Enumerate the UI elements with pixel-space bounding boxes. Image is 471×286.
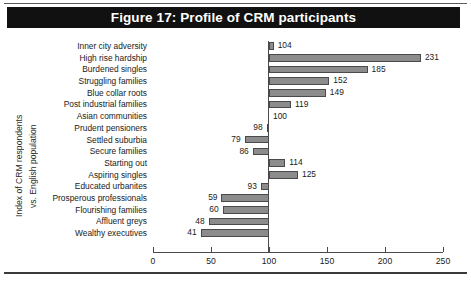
bar-row[interactable]: 41 <box>153 228 443 240</box>
x-axis-tick <box>153 247 154 252</box>
bar-row[interactable]: 93 <box>153 181 443 193</box>
bar[interactable] <box>223 206 269 214</box>
x-axis-tick-label: 50 <box>206 256 216 266</box>
category-label: High rise hardship <box>44 53 150 65</box>
bar-row[interactable]: 98 <box>153 123 443 135</box>
bar-row[interactable]: 59 <box>153 193 443 205</box>
x-axis-tick <box>327 247 328 252</box>
category-label: Flourishing families <box>44 205 150 217</box>
bar[interactable] <box>269 66 368 74</box>
bar-value-label: 114 <box>289 157 302 169</box>
category-label: Secure families <box>44 146 150 158</box>
bar-series: 1042311851521491191009879861141259359604… <box>153 41 443 252</box>
category-label: Starting out <box>44 158 150 170</box>
bar-row[interactable]: 114 <box>153 158 443 170</box>
y-axis-title: Index of CRM respondents vs. English pop… <box>12 76 40 256</box>
bar-value-label: 48 <box>195 216 204 228</box>
bottom-divider-rule <box>4 272 467 274</box>
bar-row[interactable]: 104 <box>153 41 443 53</box>
bar-value-label: 125 <box>302 169 316 181</box>
bar-row[interactable]: 185 <box>153 64 443 76</box>
x-axis-tick <box>385 247 386 252</box>
x-axis-tick-label: 250 <box>436 256 450 266</box>
bar-value-label: 149 <box>330 87 344 99</box>
bar-value-label: 59 <box>208 192 217 204</box>
bar-value-label: 86 <box>239 146 248 158</box>
category-label: Prosperous professionals <box>44 193 150 205</box>
bar[interactable] <box>269 54 421 62</box>
bar[interactable] <box>209 218 269 226</box>
category-label: Educated urbanites <box>44 181 150 193</box>
category-label: Settled suburbia <box>44 135 150 147</box>
y-axis-title-line-1: Index of CRM respondents <box>12 76 26 256</box>
category-label: Inner city adversity <box>44 41 150 53</box>
bar-value-label: 98 <box>253 122 262 134</box>
bar-value-label: 231 <box>425 52 439 64</box>
bar-value-label: 104 <box>278 40 292 52</box>
top-divider-rule <box>4 3 467 4</box>
x-axis-tick-label: 0 <box>151 256 156 266</box>
category-label: Burdened singles <box>44 64 150 76</box>
bar[interactable] <box>269 89 326 97</box>
x-axis-tick-label: 100 <box>262 256 276 266</box>
bar-row[interactable]: 119 <box>153 99 443 111</box>
x-axis-tick <box>269 247 270 252</box>
category-label: Asian communities <box>44 111 150 123</box>
bar-row[interactable]: 125 <box>153 170 443 182</box>
bar-value-label: 185 <box>372 64 386 76</box>
bar-value-label: 93 <box>248 181 257 193</box>
figure-container: Figure 17: Profile of CRM participants I… <box>0 0 471 286</box>
bar-value-label: 79 <box>231 134 240 146</box>
x-axis-tick-label: 200 <box>378 256 392 266</box>
x-axis-tick <box>443 247 444 252</box>
bar-row[interactable]: 86 <box>153 146 443 158</box>
bar[interactable] <box>253 148 269 156</box>
category-label: Prudent pensioners <box>44 123 150 135</box>
bar[interactable] <box>201 229 269 237</box>
figure-title-banner: Figure 17: Profile of CRM participants <box>7 7 460 28</box>
bar[interactable] <box>269 42 274 50</box>
x-axis-tick <box>211 247 212 252</box>
bar-row[interactable]: 100 <box>153 111 443 123</box>
bar[interactable] <box>269 101 291 109</box>
bar[interactable] <box>269 77 329 85</box>
category-label: Affluent greys <box>44 216 150 228</box>
bar-row[interactable]: 48 <box>153 216 443 228</box>
category-label-column: Inner city adversityHigh rise hardshipBu… <box>44 41 150 240</box>
y-axis-title-line-2: vs. English population <box>26 76 40 256</box>
x-axis-line <box>153 252 443 253</box>
bar-value-label: 152 <box>333 75 347 87</box>
bar-value-label: 60 <box>209 204 218 216</box>
bar-row[interactable]: 152 <box>153 76 443 88</box>
bar[interactable] <box>269 159 285 167</box>
bar-row[interactable]: 231 <box>153 53 443 65</box>
category-label: Blue collar roots <box>44 88 150 100</box>
bar-value-label: 100 <box>273 111 287 123</box>
x-axis-tick-label: 150 <box>320 256 334 266</box>
bar[interactable] <box>221 194 269 202</box>
bar-value-label: 119 <box>295 99 308 111</box>
bar[interactable] <box>245 136 269 144</box>
bar[interactable] <box>269 171 298 179</box>
figure-title: Figure 17: Profile of CRM participants <box>111 10 356 25</box>
category-label: Wealthy executives <box>44 228 150 240</box>
bar-row[interactable]: 60 <box>153 205 443 217</box>
bar-row[interactable]: 79 <box>153 135 443 147</box>
bar-row[interactable]: 149 <box>153 88 443 100</box>
category-label: Struggling families <box>44 76 150 88</box>
baseline-index-100 <box>268 41 269 253</box>
chart-plot-area: Index of CRM respondents vs. English pop… <box>0 36 471 264</box>
bar-value-label: 41 <box>187 227 196 239</box>
category-label: Aspiring singles <box>44 170 150 182</box>
category-label: Post industrial families <box>44 99 150 111</box>
